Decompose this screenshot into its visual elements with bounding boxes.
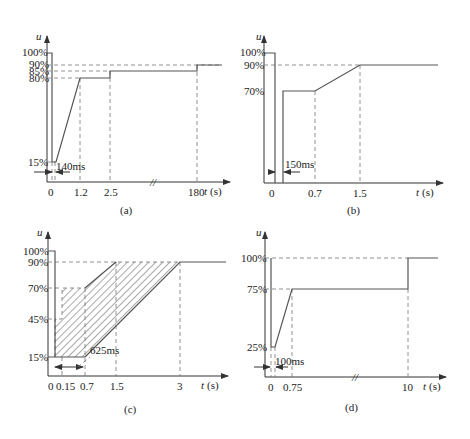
panel-caption: (b) — [347, 204, 360, 217]
y-tick: 90% — [28, 256, 48, 268]
panel-d: u t (s) 100ms // 100% 75% 25% 0 0.75 10 … — [241, 226, 446, 414]
axis-break-mark: // — [351, 371, 359, 383]
x-tick: 2.5 — [104, 186, 118, 198]
y-axis-label: u — [36, 30, 42, 42]
y-axis-label: u — [256, 226, 262, 238]
x-axis-unit: (s) — [210, 185, 222, 198]
annotation-140ms: 140ms — [56, 160, 85, 172]
y-tick: 80% — [29, 72, 49, 84]
y-tick: 70% — [244, 85, 264, 97]
x-axis-label: t — [416, 186, 420, 198]
x-axis-unit: (s) — [422, 186, 434, 199]
y-tick: 70% — [28, 282, 48, 294]
y-tick: 25% — [247, 341, 267, 353]
y-tick: 15% — [28, 156, 48, 168]
annotation-150ms: 150ms — [285, 158, 314, 170]
x-tick: 0 — [48, 380, 54, 392]
x-tick: 0.7 — [308, 187, 322, 199]
pre-fault-curve — [48, 251, 55, 357]
x-axis-unit: (s) — [207, 379, 219, 392]
figure-canvas: u t (s) 140ms // 100% 90% 85% 80% 15% 0 … — [0, 0, 470, 439]
panel-b: u t (s) 150ms 100% 90% 70% 0 0.7 1.5 (b) — [240, 30, 443, 217]
x-axis-label: t — [204, 185, 208, 197]
y-axis-label: u — [256, 30, 262, 42]
panel-c: u t (s) 625ms 100% 90% 70% 45% 15% 0 0.1… — [23, 226, 228, 416]
x-tick: 10 — [402, 381, 414, 393]
x-tick: 1.2 — [74, 186, 88, 198]
x-tick: 0 — [48, 186, 54, 198]
leader-line — [78, 357, 90, 367]
x-tick: 1.5 — [110, 380, 124, 392]
x-axis-label: t — [201, 379, 205, 391]
x-tick: 0 — [268, 381, 274, 393]
y-tick: 15% — [28, 351, 48, 363]
x-tick: 0 — [269, 187, 275, 199]
y-tick: 75% — [247, 283, 267, 295]
x-tick: 3 — [177, 380, 183, 392]
panel-caption: (c) — [124, 403, 137, 416]
annotation-100ms: 100ms — [275, 355, 304, 367]
x-tick: 0.75 — [283, 381, 303, 393]
y-tick: 45% — [28, 313, 48, 325]
y-tick: 100% — [22, 46, 48, 58]
x-tick: 1.5 — [353, 187, 367, 199]
x-tick: 0.15 — [56, 380, 76, 392]
panel-caption: (a) — [120, 204, 133, 217]
annotation-625ms: 625ms — [90, 344, 119, 356]
x-tick: 0.7 — [80, 380, 94, 392]
panel-a: u t (s) 140ms // 100% 90% 85% 80% 15% 0 … — [22, 30, 230, 217]
x-tick: 180 — [188, 186, 205, 198]
tolerance-envelope — [55, 262, 180, 357]
voltage-curve — [271, 258, 438, 347]
x-axis-unit: (s) — [429, 380, 441, 393]
y-tick: 100% — [240, 46, 266, 58]
x-axis-label: t — [423, 380, 427, 392]
y-tick: 90% — [244, 59, 264, 71]
voltage-curve — [47, 53, 222, 162]
y-tick: 100% — [241, 252, 267, 264]
axis-break-mark: // — [149, 176, 157, 188]
panel-caption: (d) — [345, 401, 358, 414]
pre-fault-curve — [264, 53, 275, 183]
y-axis-label: u — [37, 226, 43, 238]
